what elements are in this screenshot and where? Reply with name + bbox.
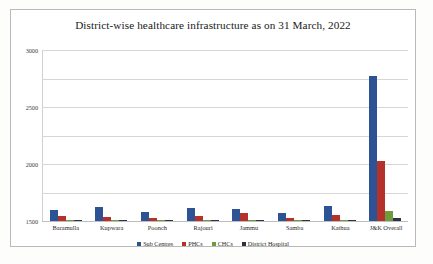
bar[interactable]	[348, 220, 356, 221]
bar-cluster	[324, 50, 356, 221]
bar[interactable]	[149, 218, 157, 221]
bar[interactable]	[369, 76, 377, 221]
bar[interactable]	[195, 216, 203, 221]
y-axis-tick-label: 2500	[26, 104, 38, 111]
bar[interactable]	[66, 220, 74, 221]
x-axis-category-label: Rajouri	[180, 224, 226, 231]
x-axis-category-label: Samba	[272, 224, 318, 231]
bar-group	[226, 50, 272, 221]
plot-area: 050010001500200025003000	[42, 41, 408, 222]
bar[interactable]	[278, 213, 286, 221]
chart-legend: Sub CentresPHCsCHCsDistrict Hospital	[11, 240, 415, 247]
legend-label: CHCs	[218, 240, 233, 247]
bar[interactable]	[58, 216, 66, 221]
legend-swatch-icon	[137, 242, 141, 246]
x-axis-labels: BaramullaKupwaraPoonchRajouriJammuSambaK…	[43, 224, 409, 231]
bar[interactable]	[141, 212, 149, 221]
bar-group	[362, 50, 408, 221]
bar[interactable]	[340, 220, 348, 221]
bar[interactable]	[232, 209, 240, 221]
legend-swatch-icon	[212, 242, 216, 246]
x-axis-category-label: Kupwara	[89, 224, 135, 231]
bar[interactable]	[187, 208, 195, 221]
bar[interactable]	[385, 211, 393, 221]
bar[interactable]	[393, 218, 401, 221]
bar[interactable]	[165, 220, 173, 221]
x-axis-category-label: Jammu	[226, 224, 272, 231]
bar-group	[134, 50, 180, 221]
bar-cluster	[50, 50, 82, 221]
x-axis-category-label: Kathua	[318, 224, 364, 231]
bar[interactable]	[203, 220, 211, 221]
bar[interactable]	[294, 220, 302, 221]
legend-label: District Hospital	[248, 240, 289, 247]
bar[interactable]	[302, 220, 310, 221]
bar[interactable]	[119, 220, 127, 221]
y-axis-tick-label: 2000	[26, 161, 38, 168]
bar[interactable]	[248, 220, 256, 221]
legend-swatch-icon	[182, 242, 186, 246]
bar-group	[43, 50, 89, 221]
bar-cluster	[369, 50, 401, 221]
bar[interactable]	[95, 207, 103, 221]
bar[interactable]	[332, 215, 340, 221]
scan-bleedthrough-text	[236, 249, 426, 262]
chart-title: District-wise healthcare infrastructure …	[11, 19, 415, 31]
bar[interactable]	[324, 206, 332, 221]
bar[interactable]	[111, 220, 119, 221]
y-axis-tick-label: 1500	[26, 218, 38, 225]
bar-cluster	[95, 50, 127, 221]
bar[interactable]	[50, 210, 58, 221]
bar[interactable]	[74, 220, 82, 221]
bar[interactable]	[377, 161, 385, 221]
chart-figure: District-wise healthcare infrastructure …	[10, 9, 416, 247]
bar[interactable]	[256, 220, 264, 221]
gridline-0: 0	[42, 221, 408, 222]
bar[interactable]	[157, 220, 165, 221]
x-axis-category-label: Poonch	[135, 224, 181, 231]
bar-group	[89, 50, 135, 221]
bar-cluster	[232, 50, 264, 221]
bar-cluster	[187, 50, 219, 221]
x-axis-category-label: Baramulla	[43, 224, 89, 231]
legend-label: Sub Centres	[143, 240, 173, 247]
legend-label: PHCs	[188, 240, 202, 247]
legend-item[interactable]: PHCs	[182, 240, 202, 247]
bar[interactable]	[211, 220, 219, 221]
bar-group	[271, 50, 317, 221]
bar-group	[180, 50, 226, 221]
bar-groups	[43, 50, 408, 221]
scanned-page: District-wise healthcare infrastructure …	[0, 0, 433, 264]
legend-item[interactable]: CHCs	[212, 240, 233, 247]
legend-swatch-icon	[242, 242, 246, 246]
bar[interactable]	[103, 217, 111, 221]
legend-item[interactable]: Sub Centres	[137, 240, 173, 247]
bar-cluster	[141, 50, 173, 221]
bar-group	[317, 50, 363, 221]
bar[interactable]	[286, 218, 294, 221]
bar[interactable]	[240, 213, 248, 221]
y-axis-tick-label: 3000	[26, 47, 38, 54]
bar-cluster	[278, 50, 310, 221]
x-axis-category-label: J&K Overall	[363, 224, 409, 231]
legend-item[interactable]: District Hospital	[242, 240, 289, 247]
